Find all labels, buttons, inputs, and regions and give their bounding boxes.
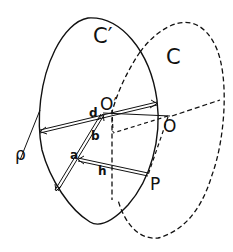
label-o-prime: O′ bbox=[100, 94, 117, 114]
label-p: P bbox=[150, 174, 160, 194]
label-h: h bbox=[98, 164, 107, 178]
segment-h-line2 bbox=[78, 161, 148, 176]
dashed-o-to-axis bbox=[113, 116, 168, 133]
segment-h-line1 bbox=[78, 158, 148, 173]
diameter-d-line1 bbox=[40, 102, 157, 130]
label-c-prime: C′ bbox=[93, 24, 113, 48]
label-o: O bbox=[163, 116, 176, 136]
label-b: b bbox=[91, 129, 100, 143]
dashed-radius-c bbox=[172, 100, 220, 116]
segment-b-line2 bbox=[58, 115, 104, 191]
geometry-diagram: C′ C O′ O P ρ a b d h bbox=[0, 0, 233, 252]
label-a: a bbox=[70, 148, 78, 162]
label-c: C bbox=[166, 45, 181, 69]
circle-c-prime bbox=[39, 18, 158, 224]
label-rho: ρ bbox=[15, 144, 26, 164]
arrowhead-right bbox=[150, 100, 157, 108]
label-d: d bbox=[89, 106, 98, 120]
circle-c-dashed-inner bbox=[112, 52, 140, 200]
